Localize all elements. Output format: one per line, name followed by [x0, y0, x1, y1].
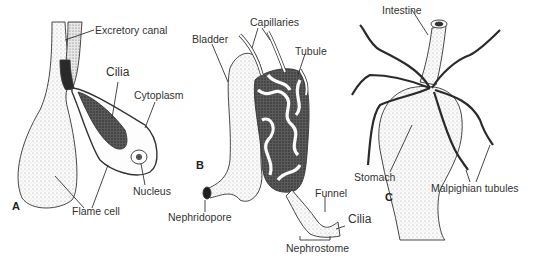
label-funnel: Funnel — [315, 187, 347, 199]
label-cytoplasm: Cytoplasm — [134, 89, 184, 101]
nephridium-drawing — [203, 28, 345, 240]
label-nucleus: Nucleus — [133, 185, 171, 197]
label-nephridopore: Nephridopore — [168, 211, 232, 223]
label-cilia-b: Cilia — [348, 213, 371, 225]
label-bladder: Bladder — [192, 33, 228, 45]
label-intestine: Intestine — [382, 4, 422, 16]
label-tubule: Tubule — [295, 45, 327, 57]
flame-cell-drawing — [18, 22, 157, 208]
label-flame-cell: Flame cell — [72, 205, 120, 217]
label-capillaries: Capillaries — [250, 16, 299, 28]
label-cilia-a: Cilia — [106, 66, 129, 78]
label-nephrostome: Nephrostome — [286, 242, 349, 254]
insect-gut-drawing — [352, 10, 500, 240]
label-malpighian-tubules: Malpighian tubules — [431, 182, 519, 194]
panel-letter-a: A — [12, 200, 20, 212]
label-stomach: Stomach — [354, 171, 395, 183]
panel-letter-c: C — [385, 191, 393, 203]
label-excretory-canal: Excretory canal — [95, 24, 167, 36]
excretory-organs-illustration — [0, 0, 533, 260]
panel-letter-b: B — [196, 159, 204, 171]
